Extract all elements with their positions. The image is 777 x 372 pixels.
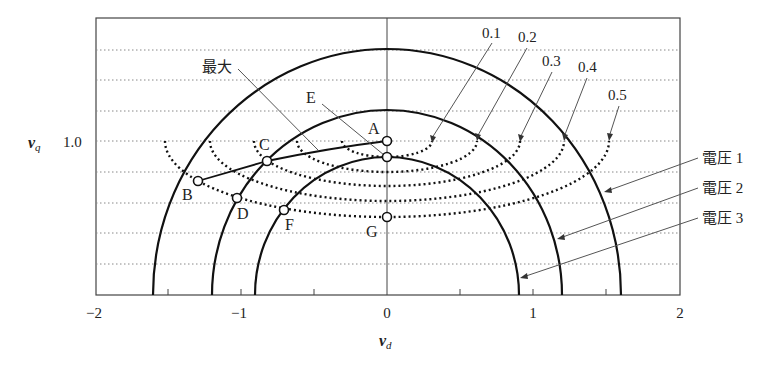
label-a: A: [368, 120, 380, 137]
point-g: [383, 213, 392, 222]
leader-lines: [238, 43, 698, 277]
x-tick-neg2: −2: [86, 305, 102, 321]
point-a: [383, 137, 392, 146]
y-tick-1-0: 1.0: [63, 134, 82, 150]
points: [194, 137, 392, 222]
vd-vq-diagram: A E C B D F G 最大 0.1 0.2 0.3 0.4 0.5 電圧 …: [0, 0, 777, 372]
point-c: [263, 157, 272, 166]
y-axis-label: vq: [28, 134, 41, 153]
point-f: [280, 206, 289, 215]
point-d: [233, 194, 242, 203]
contour-label-0-2: 0.2: [518, 29, 537, 45]
label-d: D: [237, 205, 249, 222]
label-c: C: [259, 136, 270, 153]
leader-voltage-2: [560, 188, 698, 238]
label-g: G: [366, 223, 378, 240]
x-tick-0: 0: [383, 305, 391, 321]
max-label: 最大: [202, 59, 232, 75]
x-tick-neg1: −1: [231, 305, 247, 321]
x-axis-label: vd: [379, 332, 392, 351]
point-b: [194, 177, 203, 186]
leader-voltage-1: [607, 158, 698, 191]
contour-label-0-1: 0.1: [482, 25, 501, 41]
leader-0-4: [564, 78, 587, 137]
leader-0-5: [609, 106, 619, 137]
label-b: B: [182, 186, 193, 203]
arrowheads: [430, 133, 613, 279]
label-f: F: [285, 216, 294, 233]
max-leader: [238, 69, 318, 150]
x-tick-1: 1: [529, 305, 537, 321]
contour-label-0-3: 0.3: [542, 53, 561, 69]
contour-label-0-5: 0.5: [608, 87, 627, 103]
voltage-label-2: 電圧 2: [702, 180, 743, 196]
label-e: E: [306, 89, 316, 106]
voltage-label-1: 電圧 1: [702, 150, 743, 166]
leader-0-1: [432, 43, 492, 138]
contour-label-0-4: 0.4: [578, 59, 597, 75]
leader-0-3: [520, 72, 552, 138]
point-e: [383, 153, 392, 162]
x-tick-2: 2: [676, 305, 684, 321]
voltage-label-3: 電圧 3: [702, 210, 743, 226]
